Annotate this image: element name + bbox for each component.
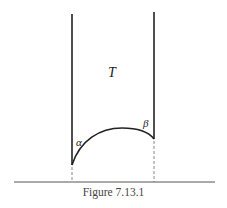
angle-label-alpha: α bbox=[76, 136, 82, 148]
figure-caption: Figure 7.13.1 bbox=[0, 186, 227, 198]
meniscus-curve bbox=[72, 128, 154, 165]
figure-diagram: T α β bbox=[0, 0, 227, 208]
region-label-t: T bbox=[108, 65, 117, 80]
angle-label-beta: β bbox=[142, 117, 149, 129]
